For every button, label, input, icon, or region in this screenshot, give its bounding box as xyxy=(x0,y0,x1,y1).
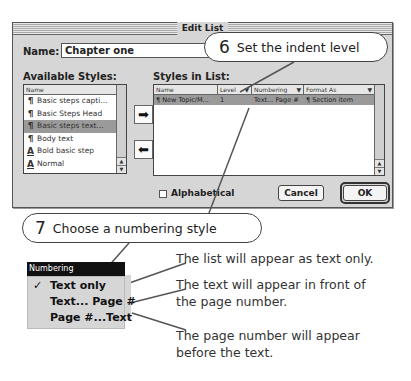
arrow-right-icon: ➡ xyxy=(138,107,149,122)
style-item[interactable]: ANormal xyxy=(24,158,116,171)
name-label: Name: xyxy=(23,46,59,57)
menu-item-page-text[interactable]: Page #...Text xyxy=(28,310,124,326)
style-item-label: Normal xyxy=(37,158,64,170)
alphabetical-label[interactable]: Alphabetical xyxy=(171,188,234,198)
style-item-label: Basic steps capti... xyxy=(37,95,107,107)
style-item-label: Bold basic step xyxy=(37,145,94,157)
row-format-text: Section item xyxy=(312,96,353,104)
numbering-popup-menu[interactable]: Numbering ✓Text only Text... Page # Page… xyxy=(27,262,125,329)
step-number: 7 xyxy=(35,218,46,238)
description-text-page: The text will appear in front of the pag… xyxy=(176,276,366,310)
numbering-menu-title[interactable]: Numbering xyxy=(27,262,125,276)
paragraph-style-icon: ¶ xyxy=(306,96,310,104)
numbering-menu-body: ✓Text only Text... Page # Page #...Text xyxy=(27,276,125,329)
menu-item-text-page[interactable]: Text... Page # xyxy=(28,294,124,310)
description-line: The text will appear in front of xyxy=(176,276,366,293)
description-line: The page number will appear xyxy=(176,327,360,344)
character-style-icon: A xyxy=(27,158,34,170)
step-6-callout: 6 Set the indent level xyxy=(204,32,388,62)
ok-button[interactable]: OK xyxy=(343,185,387,201)
menu-item-label: Page #...Text xyxy=(50,311,132,324)
menu-item-label: Text... Page # xyxy=(50,295,136,308)
row-format[interactable]: ¶ Section item xyxy=(304,95,374,105)
scroll-up-icon[interactable]: ▲ xyxy=(117,157,126,165)
style-item-selected[interactable]: ¶Basic steps text... xyxy=(24,120,116,133)
character-style-icon: A xyxy=(27,145,34,157)
description-line: before the text. xyxy=(176,344,360,361)
scroll-up-icon[interactable]: ▲ xyxy=(375,159,384,167)
description-text-only: The list will appear as text only. xyxy=(176,250,374,267)
remove-style-button[interactable]: ⬅ xyxy=(134,140,153,159)
style-item[interactable]: ABold basic step xyxy=(24,145,116,158)
step-text: Set the indent level xyxy=(237,40,360,55)
description-page-text: The page number will appear before the t… xyxy=(176,327,360,361)
column-name-label: Name xyxy=(156,86,174,93)
paragraph-style-icon: ¶ xyxy=(27,108,34,120)
dropdown-caret-icon: ▼ xyxy=(367,85,372,94)
style-item-label: Basic Steps Head xyxy=(37,108,102,120)
dropdown-caret-icon: ▼ xyxy=(296,85,301,94)
column-name[interactable]: Name xyxy=(154,85,218,94)
row-level[interactable]: 1 xyxy=(218,95,252,105)
style-item[interactable]: ¶Body text xyxy=(24,133,116,146)
paragraph-style-icon: ¶ xyxy=(27,133,34,145)
description-line: The list will appear as text only. xyxy=(176,250,374,267)
column-level-label: Level xyxy=(220,86,236,93)
style-item[interactable]: ¶Basic Steps Head xyxy=(24,108,116,121)
paragraph-style-icon: ¶ xyxy=(27,95,34,107)
row-name-text: New Topic/M... xyxy=(162,96,209,104)
paragraph-style-icon: ¶ xyxy=(27,120,34,132)
styles-in-list-header: Name Level▼ Numbering▼ Format As▼ xyxy=(154,85,374,95)
column-format-as[interactable]: Format As▼ xyxy=(304,85,374,94)
scroll-down-icon[interactable]: ▼ xyxy=(117,165,126,173)
name-input[interactable]: Chapter one xyxy=(61,43,221,58)
row-numbering[interactable]: Text... Page # xyxy=(252,95,304,105)
scroll-down-icon[interactable]: ▼ xyxy=(375,167,384,175)
add-style-button[interactable]: ➡ xyxy=(134,105,153,124)
paragraph-style-icon: ¶ xyxy=(156,96,160,104)
styles-in-list[interactable]: Name Level▼ Numbering▼ Format As▼ ¶ New … xyxy=(153,84,385,176)
checkmark-icon: ✓ xyxy=(33,278,42,294)
style-item[interactable]: ¶Basic steps capti... xyxy=(24,95,116,108)
menu-item-label: Text only xyxy=(50,279,106,292)
cancel-button[interactable]: Cancel xyxy=(278,185,324,201)
alphabetical-checkbox[interactable] xyxy=(159,190,167,198)
column-format-label: Format As xyxy=(306,86,336,93)
styles-in-list-scrollbar[interactable]: ▲ ▼ xyxy=(374,85,384,175)
column-level[interactable]: Level▼ xyxy=(218,85,252,94)
step-7-callout: 7 Choose a numbering style xyxy=(22,213,262,243)
description-line: the page number. xyxy=(176,293,366,310)
style-item-label: Body text xyxy=(37,133,73,145)
arrow-left-icon: ⬅ xyxy=(138,142,149,157)
available-styles-scrollbar[interactable]: ▲ ▼ xyxy=(116,85,126,173)
available-styles-list[interactable]: Name ¶Basic steps capti... ¶Basic Steps … xyxy=(23,84,127,174)
column-numbering[interactable]: Numbering▼ xyxy=(252,85,304,94)
column-numbering-label: Numbering xyxy=(254,86,287,93)
available-styles-label: Available Styles: xyxy=(23,71,117,82)
dropdown-caret-icon: ▼ xyxy=(244,85,249,94)
step-number: 6 xyxy=(219,37,230,57)
style-item-label: Basic steps text... xyxy=(37,120,104,132)
styles-in-list-label: Styles in List: xyxy=(153,71,230,82)
available-styles-header[interactable]: Name xyxy=(24,85,116,95)
table-row[interactable]: ¶ New Topic/M... 1 Text... Page # ¶ Sect… xyxy=(154,95,374,105)
row-name: ¶ New Topic/M... xyxy=(154,95,218,105)
menu-item-text-only[interactable]: ✓Text only xyxy=(28,278,124,294)
step-text: Choose a numbering style xyxy=(53,221,217,236)
